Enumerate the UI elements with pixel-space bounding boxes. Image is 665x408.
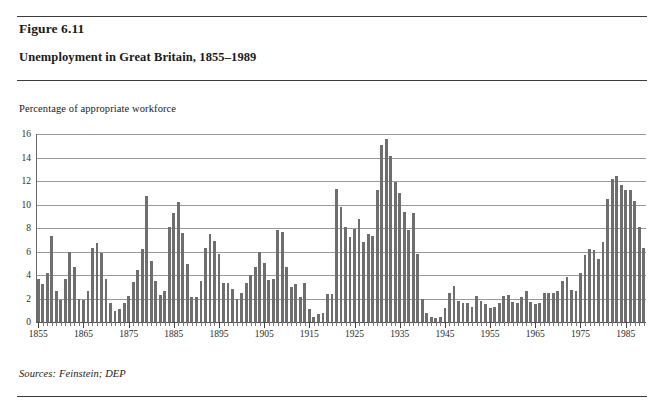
- x-tick-minor: [359, 322, 360, 326]
- x-tick-label: 1945: [435, 329, 454, 339]
- x-tick-minor: [300, 322, 301, 326]
- x-tick-label: 1905: [255, 329, 274, 339]
- x-tick-minor: [269, 322, 270, 326]
- bar: [326, 294, 329, 322]
- x-tick-minor: [210, 322, 211, 326]
- x-tick-minor: [228, 322, 229, 326]
- bar: [543, 293, 546, 322]
- x-tick-minor: [242, 322, 243, 326]
- bar: [602, 242, 605, 322]
- bar: [529, 302, 532, 322]
- x-tick-label: 1955: [481, 329, 500, 339]
- x-tick-minor: [368, 322, 369, 326]
- x-tick-minor: [287, 322, 288, 326]
- bar: [376, 190, 379, 322]
- x-tick-minor: [178, 322, 179, 326]
- x-tick-minor: [327, 322, 328, 326]
- bar: [254, 267, 257, 322]
- x-tick-minor: [332, 322, 333, 326]
- x-tick-minor: [169, 322, 170, 326]
- bar: [123, 303, 126, 322]
- bar: [41, 284, 44, 322]
- bar: [127, 296, 130, 322]
- bar: [385, 139, 388, 322]
- x-tick-minor: [504, 322, 505, 326]
- bar: [457, 301, 460, 322]
- bar: [100, 253, 103, 322]
- x-tick-minor: [526, 322, 527, 326]
- x-tick-minor: [499, 322, 500, 326]
- x-tick-minor: [395, 322, 396, 326]
- x-tick-minor: [251, 322, 252, 326]
- x-tick-minor: [138, 322, 139, 326]
- x-tick-minor: [571, 322, 572, 326]
- x-tick-minor: [214, 322, 215, 326]
- x-tick-minor: [318, 322, 319, 326]
- bar: [570, 290, 573, 322]
- bar: [412, 213, 415, 322]
- bar: [181, 233, 184, 322]
- bar: [200, 281, 203, 322]
- bar: [588, 249, 591, 322]
- x-tick-minor: [133, 322, 134, 326]
- bar: [96, 243, 99, 322]
- sources-note: Sources: Feinstein; DEP: [19, 368, 126, 379]
- bar: [629, 190, 632, 322]
- bar: [177, 202, 180, 322]
- x-tick-major: [580, 322, 581, 328]
- x-tick-minor: [79, 322, 80, 326]
- x-axis: 1855186518751885189519051915192519351945…: [36, 322, 646, 346]
- bar: [204, 248, 207, 322]
- bar: [389, 156, 392, 322]
- header-divider-rule: [17, 80, 647, 81]
- bar: [73, 267, 76, 322]
- bar: [55, 291, 58, 322]
- bar: [154, 281, 157, 322]
- bar: [493, 307, 496, 322]
- y-tick-label: 16: [22, 129, 32, 139]
- bar: [480, 301, 483, 322]
- x-tick-minor: [612, 322, 613, 326]
- x-tick-minor: [364, 322, 365, 326]
- bar: [475, 296, 478, 322]
- bar: [371, 236, 374, 322]
- bar: [308, 309, 311, 322]
- x-tick-minor: [440, 322, 441, 326]
- bar: [213, 241, 216, 322]
- bar: [50, 236, 53, 322]
- figure-panel: Figure 6.11 Unemployment in Great Britai…: [0, 0, 665, 408]
- x-tick-minor: [576, 322, 577, 326]
- bar: [258, 252, 261, 323]
- bar: [91, 248, 94, 322]
- x-tick-minor: [635, 322, 636, 326]
- bar: [444, 308, 447, 322]
- bar: [398, 193, 401, 322]
- bar: [575, 291, 578, 322]
- x-tick-minor: [427, 322, 428, 326]
- bar: [525, 291, 528, 322]
- x-tick-minor: [291, 322, 292, 326]
- x-tick-minor: [341, 322, 342, 326]
- bar: [597, 259, 600, 322]
- x-tick-minor: [463, 322, 464, 326]
- bar: [236, 299, 239, 323]
- bar: [263, 263, 266, 322]
- x-tick-major: [355, 322, 356, 328]
- x-tick-label: 1975: [571, 329, 590, 339]
- bar: [78, 299, 81, 323]
- bar: [516, 303, 519, 322]
- x-tick-label: 1855: [29, 329, 48, 339]
- x-tick-minor: [422, 322, 423, 326]
- x-tick-minor: [282, 322, 283, 326]
- x-tick-label: 1925: [345, 329, 364, 339]
- y-tick-label: 4: [26, 270, 31, 280]
- x-tick-minor: [192, 322, 193, 326]
- x-tick-minor: [273, 322, 274, 326]
- x-tick-minor: [603, 322, 604, 326]
- x-tick-minor: [296, 322, 297, 326]
- x-tick-label: 1935: [390, 329, 409, 339]
- x-tick-minor: [70, 322, 71, 326]
- x-tick-minor: [594, 322, 595, 326]
- bar: [64, 279, 67, 322]
- bottom-rule: [17, 396, 647, 397]
